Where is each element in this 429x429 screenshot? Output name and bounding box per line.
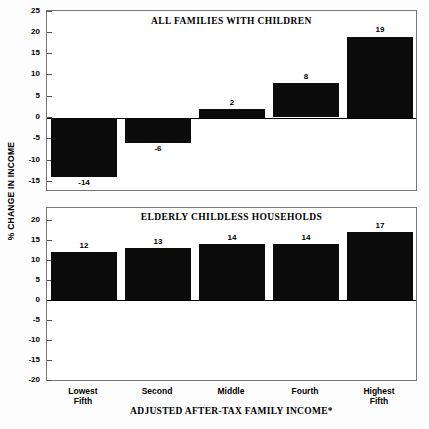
bar-bottom-fourth [273, 244, 339, 300]
tick-mark [47, 11, 52, 12]
figure-root: % CHANGE IN INCOME ALL FAMILIES WITH CHI… [0, 0, 429, 429]
x-category-second: Second [124, 386, 190, 396]
bar-label-bottom-second: 13 [125, 237, 191, 246]
bar-bottom-second [125, 248, 191, 300]
bar-top-highest-fifth [347, 37, 413, 118]
tick-mark [47, 74, 52, 75]
x-category-line1: Second [142, 386, 173, 396]
bar-label-bottom-middle: 14 [199, 233, 265, 242]
tick-mark [47, 53, 52, 54]
bar-label-top-fourth: 8 [273, 72, 339, 81]
x-category-middle: Middle [198, 386, 264, 396]
chart-panel-all-families: ALL FAMILIES WITH CHILDREN 25 20 15 10 5… [46, 10, 417, 191]
x-category-line1: Fourth [292, 386, 319, 396]
bar-label-top-middle: 2 [199, 98, 265, 107]
bar-top-second [125, 118, 191, 144]
bar-top-middle [199, 109, 265, 118]
bar-bottom-middle [199, 244, 265, 300]
bar-label-bottom-highest-fifth: 17 [347, 221, 413, 230]
bar-label-top-highest-fifth: 19 [347, 25, 413, 34]
tick-mark [47, 32, 52, 33]
tick-mark [47, 380, 52, 381]
bar-label-bottom-fourth: 14 [273, 233, 339, 242]
tick-mark [47, 220, 52, 221]
bar-label-top-lowest-fifth: -14 [51, 178, 117, 187]
chart-panel-elderly-childless: ELDERLY CHILDLESS HOUSEHOLDS 20 15 10 5 … [46, 207, 417, 381]
x-category-line2: Fifth [50, 396, 116, 406]
bar-bottom-highest-fifth [347, 232, 413, 300]
bar-top-fourth [273, 83, 339, 117]
x-category-line1: Middle [218, 386, 245, 396]
bar-label-top-second: -6 [125, 144, 191, 153]
x-category-highest-fifth: Highest Fifth [346, 386, 412, 406]
x-category-line2: Fifth [346, 396, 412, 406]
x-category-fourth: Fourth [272, 386, 338, 396]
tick-mark [47, 340, 52, 341]
bar-top-lowest-fifth [51, 118, 117, 178]
bar-label-bottom-lowest-fifth: 12 [51, 241, 117, 250]
x-category-line1: Lowest [68, 386, 97, 396]
tick-mark [47, 96, 52, 97]
x-category-lowest-fifth: Lowest Fifth [50, 386, 116, 406]
x-category-line1: Highest [363, 386, 394, 396]
y-axis-title: % CHANGE IN INCOME [6, 111, 16, 271]
x-axis-title: ADJUSTED AFTER-TAX FAMILY INCOME* [46, 406, 417, 416]
zero-baseline-bottom [47, 300, 416, 301]
bar-bottom-lowest-fifth [51, 252, 117, 300]
tick-mark [47, 320, 52, 321]
tick-mark [47, 360, 52, 361]
